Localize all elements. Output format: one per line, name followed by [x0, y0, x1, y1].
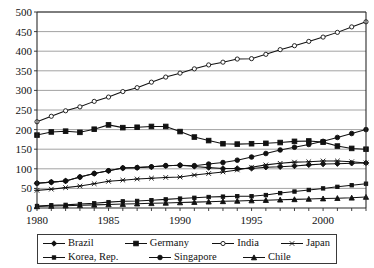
legend-label: Singapore: [174, 252, 217, 262]
svg-text:400: 400: [16, 45, 33, 57]
svg-text:300: 300: [16, 84, 33, 96]
svg-text:1995: 1995: [241, 214, 264, 226]
svg-text:0: 0: [27, 202, 33, 214]
svg-text:1990: 1990: [169, 214, 192, 226]
series-india: [35, 20, 368, 124]
legend-marker-x: [280, 238, 304, 249]
chart-legend: BrazilGermanyIndiaJapan Korea, Rep.Singa…: [37, 234, 337, 264]
svg-text:150: 150: [16, 143, 33, 155]
series-singapore: [35, 127, 369, 185]
series-germany: [35, 123, 369, 152]
legend-item-india[interactable]: India: [211, 238, 278, 249]
legend-marker-circle-filled: [148, 252, 172, 263]
line-chart-svg: 050100150200250300350400450500 198019851…: [0, 0, 374, 226]
legend-label: Germany: [150, 238, 189, 248]
svg-text:350: 350: [16, 65, 33, 77]
svg-text:50: 50: [21, 182, 33, 194]
legend-marker-square-filled: [124, 238, 148, 249]
chart-plot-area: 050100150200250300350400450500 198019851…: [0, 0, 374, 226]
y-axis-tick-labels: 050100150200250300350400450500: [16, 6, 38, 214]
legend-label: India: [237, 238, 259, 248]
chart-page: 050100150200250300350400450500 198019851…: [0, 0, 374, 268]
svg-text:1980: 1980: [26, 214, 49, 226]
legend-label: Japan: [306, 238, 330, 248]
legend-item-japan[interactable]: Japan: [280, 238, 330, 249]
series-brazil: [34, 160, 368, 186]
svg-text:100: 100: [16, 163, 33, 175]
svg-text:1985: 1985: [98, 214, 121, 226]
legend-marker-triangle: [242, 252, 266, 263]
legend-item-chile[interactable]: Chile: [242, 252, 291, 263]
svg-text:450: 450: [16, 26, 33, 38]
legend-label: Chile: [268, 252, 291, 262]
x-axis-tick-labels: 19801985199019952000: [26, 214, 335, 226]
legend-marker-square-small: [42, 252, 66, 263]
svg-text:2000: 2000: [312, 214, 335, 226]
legend-item-brazil[interactable]: Brazil: [42, 238, 122, 249]
svg-text:500: 500: [16, 6, 33, 18]
legend-marker-circle-open: [211, 238, 235, 249]
legend-row-bottom: Korea, Rep.SingaporeChile: [42, 250, 332, 264]
legend-item-germany[interactable]: Germany: [124, 238, 209, 249]
legend-label: Korea, Rep.: [68, 252, 118, 262]
legend-row-top: BrazilGermanyIndiaJapan: [42, 236, 332, 250]
gridlines: [37, 12, 366, 188]
legend-item-singapore[interactable]: Singapore: [148, 252, 240, 263]
legend-marker-diamond: [42, 238, 66, 249]
data-series-layer: [34, 20, 369, 209]
series-korea-rep: [35, 182, 367, 208]
legend-label: Brazil: [68, 238, 94, 248]
svg-text:200: 200: [16, 124, 33, 136]
legend-item-korea-rep[interactable]: Korea, Rep.: [42, 252, 146, 263]
series-chile: [34, 194, 368, 208]
svg-text:250: 250: [16, 104, 33, 116]
